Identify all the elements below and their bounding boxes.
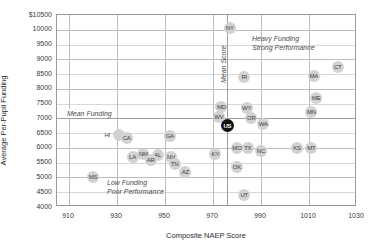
gridline-vertical [117, 15, 118, 205]
gridline-horizontal [57, 59, 355, 60]
data-point-label: OK [233, 164, 241, 170]
gridline-horizontal [57, 192, 355, 193]
mean-score-line [227, 15, 228, 205]
data-point[interactable]: KY [209, 148, 221, 160]
y-tick-label: 8000 [2, 84, 52, 91]
data-point-label: RI [241, 74, 247, 80]
mean-funding-label: Mean Funding [67, 109, 112, 118]
y-tick-label: $10500 [2, 11, 52, 18]
data-point-us[interactable]: US [221, 119, 234, 132]
data-point-label: MN [307, 109, 316, 115]
data-point[interactable]: AZ [179, 166, 191, 178]
y-tick-label: 5000 [2, 173, 52, 180]
data-point[interactable]: NC [255, 145, 267, 157]
x-tick-label: 910 [48, 212, 88, 219]
data-point[interactable]: UT [238, 189, 250, 201]
x-tick-label: 1030 [336, 212, 376, 219]
data-point[interactable]: CT [332, 61, 344, 73]
x-tick-label: 930 [96, 212, 136, 219]
gridline-horizontal [57, 89, 355, 90]
data-point[interactable]: RI [238, 71, 250, 83]
data-point-label: LA [129, 154, 136, 160]
data-point-label: MO [232, 145, 241, 151]
data-point-label: MA [309, 73, 318, 79]
data-point-label: OR [247, 115, 256, 121]
data-point-label: US [223, 123, 231, 129]
y-tick-label: 6000 [2, 143, 52, 150]
data-point-label: AZ [182, 169, 189, 175]
data-point-label: NY [226, 25, 234, 31]
y-tick-label: 5500 [2, 158, 52, 165]
x-tick-label: 970 [192, 212, 232, 219]
data-point[interactable]: MA [308, 70, 320, 82]
data-point-label: AR [147, 157, 155, 163]
data-point[interactable]: WA [257, 118, 269, 130]
data-point[interactable]: GA [164, 130, 176, 142]
x-tick-label: 990 [240, 212, 280, 219]
gridline-horizontal [57, 30, 355, 31]
y-tick-label: 10000 [2, 25, 52, 32]
scatter-chart: Average Per-Pupil Funding Composite NAEP… [0, 0, 378, 241]
poor-performance-label: Poor Performance [107, 187, 164, 196]
strong-performance-label: Strong Performance [252, 43, 315, 52]
data-point-label: WA [259, 121, 268, 127]
y-tick-label: 7500 [2, 99, 52, 106]
data-point-label: WV [214, 114, 223, 120]
low-funding-label: Low Funding [107, 178, 147, 187]
data-point-label: UT [240, 192, 248, 198]
x-axis-title: Composite NAEP Score [56, 231, 356, 240]
data-point-label: MT [307, 145, 315, 151]
gridline-vertical [213, 15, 214, 205]
data-point[interactable]: OK [231, 161, 243, 173]
data-point-label: GA [166, 133, 174, 139]
data-point-label: TX [244, 145, 251, 151]
data-point[interactable]: KS [291, 142, 303, 154]
data-point-label: KY [212, 151, 220, 157]
y-tick-label: 9000 [2, 55, 52, 62]
data-point[interactable]: ME [310, 92, 322, 104]
gridline-horizontal [57, 177, 355, 178]
data-point[interactable]: CA [121, 132, 133, 144]
data-point-label: ME [312, 95, 321, 101]
mean-score-label: Mean Score [219, 45, 228, 83]
data-point-label: CT [334, 64, 342, 70]
data-point-label: WY [242, 105, 251, 111]
data-point-label: MD [217, 104, 226, 110]
data-point-label: KS [293, 145, 301, 151]
y-tick-label: 7000 [2, 114, 52, 121]
data-point[interactable]: MT [305, 142, 317, 154]
data-point[interactable]: LA [127, 151, 139, 163]
x-tick-label: 950 [144, 212, 184, 219]
gridline-horizontal [57, 163, 355, 164]
gridline-vertical [165, 15, 166, 205]
data-point-label: MS [89, 174, 98, 180]
data-point[interactable]: MS [87, 171, 99, 183]
data-point[interactable]: AR [145, 154, 157, 166]
data-point[interactable]: TX [242, 142, 254, 154]
data-point-label: NC [257, 148, 265, 154]
y-tick-label: 4500 [2, 188, 52, 195]
plot-area: Mean FundingMean ScoreHeavy FundingStron… [56, 14, 356, 206]
y-tick-label: 4000 [2, 203, 52, 210]
data-point-label: CA [123, 135, 131, 141]
gridline-horizontal [57, 133, 355, 134]
y-tick-label: 8500 [2, 70, 52, 77]
data-point[interactable]: OR [245, 112, 257, 124]
y-tick-label: 9500 [2, 40, 52, 47]
data-point-label: TN [171, 161, 179, 167]
gridline-horizontal [57, 104, 355, 105]
y-tick-label: 6500 [2, 129, 52, 136]
heavy-funding-label: Heavy Funding [252, 34, 299, 43]
x-tick-label: 1010 [288, 212, 328, 219]
data-point[interactable]: NY [224, 22, 236, 34]
data-point[interactable]: MN [305, 106, 317, 118]
